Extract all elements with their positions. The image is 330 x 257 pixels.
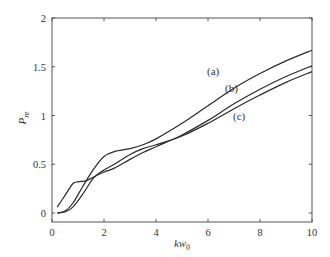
curve-a: [57, 50, 312, 213]
x-tick-label: 2: [101, 227, 106, 238]
x-tick-label: 6: [205, 227, 210, 238]
plot-frame: [52, 18, 312, 222]
data-curves: [57, 50, 312, 213]
line-chart: 024681000.511.52 (a)(b)(c) kw0 Pre: [0, 0, 330, 257]
curve-label-c: (c): [233, 110, 246, 123]
plot-box: [52, 18, 312, 222]
curve-labels: (a)(b)(c): [207, 65, 246, 124]
x-axis-label: kw0: [174, 237, 190, 252]
y-axis-label: Pre: [16, 111, 31, 126]
y-tick-label: 0.5: [33, 159, 46, 170]
x-tick-label: 10: [307, 227, 318, 238]
y-tick-label: 1: [41, 111, 46, 122]
curve-b: [57, 66, 312, 207]
curve-c: [57, 72, 312, 213]
curve-label-b: (b): [225, 82, 238, 95]
y-tick-label: 1.5: [33, 62, 46, 73]
x-tick-label: 0: [49, 227, 54, 238]
x-tick-label: 8: [257, 227, 262, 238]
curve-label-a: (a): [207, 65, 220, 78]
y-tick-label: 2: [41, 13, 46, 24]
y-tick-label: 0: [41, 208, 46, 219]
x-tick-label: 4: [153, 227, 159, 238]
